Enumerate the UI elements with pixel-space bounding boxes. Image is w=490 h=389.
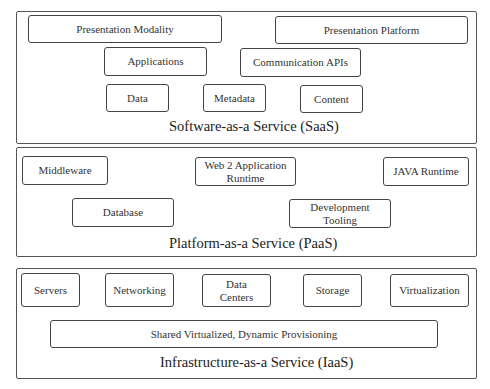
storage-label: Storage xyxy=(316,284,350,297)
data-label: Data xyxy=(127,92,148,105)
virtualization-box: Virtualization xyxy=(390,274,469,307)
web2-runtime-box: Web 2 Application Runtime xyxy=(195,157,296,186)
java-runtime-label: JAVA Runtime xyxy=(393,165,458,178)
database-label: Database xyxy=(103,206,143,219)
shared-provisioning-label: Shared Virtualized, Dynamic Provisioning xyxy=(151,328,338,341)
servers-box: Servers xyxy=(21,273,80,307)
communication-apis-label: Communication APIs xyxy=(253,56,348,69)
saas-layer-title: Software-as-a Service (SaaS) xyxy=(169,118,339,135)
applications-label: Applications xyxy=(127,55,183,68)
data-centers-box: Data Centers xyxy=(202,274,271,307)
iaas-layer-title: Infrastructure-as-a Service (IaaS) xyxy=(160,354,353,371)
middleware-box: Middleware xyxy=(22,156,108,185)
web2-runtime-label-line2: Runtime xyxy=(227,172,265,185)
database-box: Database xyxy=(72,198,174,227)
networking-label: Networking xyxy=(113,284,166,297)
data-box: Data xyxy=(106,84,169,112)
web2-runtime-label-line1: Web 2 Application xyxy=(204,159,286,172)
content-box: Content xyxy=(300,85,363,113)
metadata-box: Metadata xyxy=(203,84,266,112)
data-centers-label-line2: Centers xyxy=(220,291,254,304)
development-tooling-label-line1: Development xyxy=(310,201,369,214)
data-centers-label-line1: Data xyxy=(226,278,247,291)
java-runtime-box: JAVA Runtime xyxy=(383,157,469,186)
presentation-platform-label: Presentation Platform xyxy=(324,24,420,37)
middleware-label: Middleware xyxy=(38,164,91,177)
shared-provisioning-box: Shared Virtualized, Dynamic Provisioning xyxy=(50,320,438,348)
presentation-platform-box: Presentation Platform xyxy=(275,16,468,44)
communication-apis-box: Communication APIs xyxy=(240,48,361,77)
development-tooling-label-line2: Tooling xyxy=(323,214,357,227)
applications-box: Applications xyxy=(104,47,207,76)
presentation-modality-box: Presentation Modality xyxy=(28,15,222,43)
metadata-label: Metadata xyxy=(214,92,255,105)
networking-box: Networking xyxy=(105,273,174,307)
paas-layer-title: Platform-as-a Service (PaaS) xyxy=(169,235,337,252)
servers-label: Servers xyxy=(34,284,67,297)
storage-box: Storage xyxy=(303,274,362,307)
presentation-modality-label: Presentation Modality xyxy=(76,23,173,36)
virtualization-label: Virtualization xyxy=(399,284,459,297)
development-tooling-box: Development Tooling xyxy=(289,199,391,228)
content-label: Content xyxy=(314,93,349,106)
